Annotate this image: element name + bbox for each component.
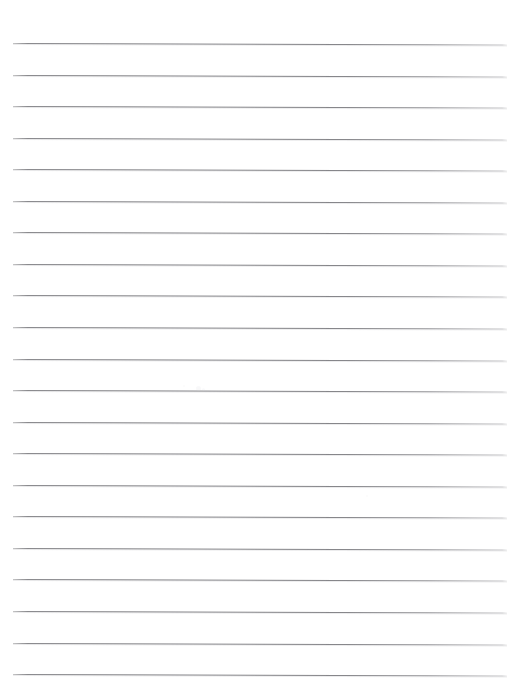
rule-line [13, 485, 507, 488]
rule-line [13, 611, 507, 614]
rule-line [13, 138, 507, 141]
rule-line [13, 75, 507, 78]
rule-line [13, 643, 507, 646]
rule-line [13, 264, 507, 267]
rule-line [13, 295, 507, 298]
rule-line [13, 548, 507, 551]
rule-line [13, 453, 507, 456]
rule-lines-container [0, 0, 514, 689]
rule-line [13, 232, 507, 235]
ruled-paper-page [0, 0, 514, 689]
rule-line [13, 169, 507, 172]
rule-line [13, 201, 507, 204]
rule-line [13, 579, 507, 582]
rule-line [13, 43, 507, 46]
rule-line [13, 327, 507, 330]
rule-line [13, 516, 507, 519]
rule-line [13, 674, 507, 677]
rule-line [13, 106, 507, 109]
rule-line [13, 359, 507, 362]
rule-line [13, 422, 507, 425]
rule-line [13, 390, 507, 393]
